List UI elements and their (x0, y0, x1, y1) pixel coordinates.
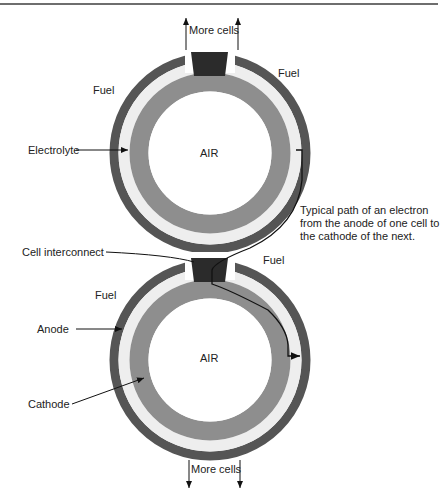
air-bottom-label: AIR (200, 352, 218, 365)
air-top-label: AIR (200, 147, 218, 160)
anode-label: Anode (37, 323, 69, 336)
electron-path-note: Typical path of an electron from the ano… (300, 204, 440, 243)
cathode-label: Cathode (28, 398, 70, 411)
more-cells-top-label: More cells (189, 24, 239, 37)
fuel-bottom-right-label: Fuel (263, 254, 284, 267)
fuel-top-right-label: Fuel (278, 67, 299, 80)
fuel-top-left-label: Fuel (93, 84, 114, 97)
fuel-bottom-left-label: Fuel (95, 289, 116, 302)
more-cells-bottom-label: More cells (191, 463, 241, 476)
cell-interconnect-label: Cell interconnect (22, 246, 104, 259)
electrolyte-label: Electrolyte (28, 144, 79, 157)
